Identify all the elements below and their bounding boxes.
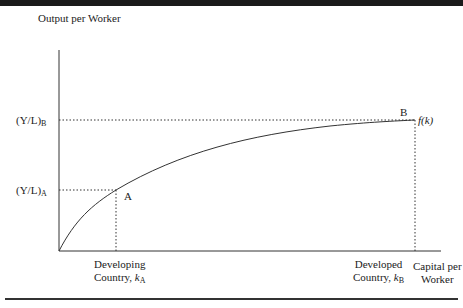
x-tick-b-sub: B (399, 276, 404, 285)
x-tick-b-line1: Developed (353, 258, 404, 271)
bottom-rule (5, 298, 458, 300)
x-tick-a-line2: Country, kA (94, 271, 146, 287)
x-axis-label-line1: Capital per (413, 260, 462, 273)
y-tick-b-sub: B (41, 119, 46, 128)
x-tick-a-line1: Developing (94, 258, 146, 271)
x-tick-developed: Developed Country, kB (353, 258, 404, 287)
x-tick-b-line2: Country, kB (353, 271, 404, 287)
curve-label: f(k) (418, 114, 433, 127)
y-tick-b-main: (Y/L) (16, 114, 41, 126)
x-axis-label: Capital per Worker (413, 260, 462, 286)
production-curve (59, 120, 415, 251)
x-tick-developing: Developing Country, kA (94, 258, 146, 287)
x-tick-b-text: Country, (353, 271, 394, 283)
x-axis-label-line2: Worker (413, 273, 462, 286)
y-tick-a-sub: A (41, 189, 47, 198)
y-tick-b: (Y/L)B (16, 114, 46, 130)
y-tick-a-main: (Y/L) (16, 184, 41, 196)
point-b-label: B (400, 106, 407, 119)
y-tick-a: (Y/L)A (16, 184, 47, 200)
x-tick-a-text: Country, (94, 271, 135, 283)
point-a-label: A (124, 190, 132, 203)
x-tick-a-sub: A (140, 276, 146, 285)
y-axis-label: Output per Worker (38, 12, 121, 25)
